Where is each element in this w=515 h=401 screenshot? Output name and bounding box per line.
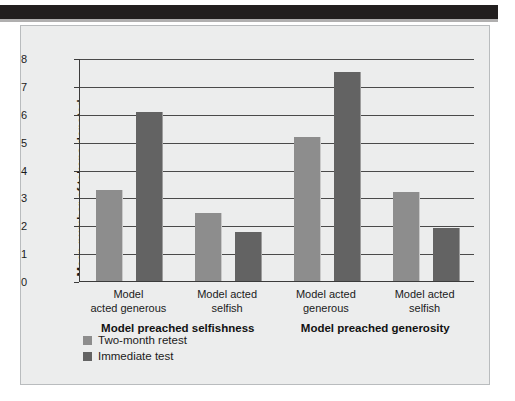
bar-immediate-test	[136, 112, 163, 281]
y-tick-label: 4	[5, 166, 27, 176]
x-category-label: Model actedselfish	[365, 288, 485, 315]
top-black-band	[0, 5, 498, 19]
y-tick-label: 1	[5, 249, 27, 259]
y-tick-label: 6	[5, 110, 27, 120]
legend-label: Immediate test	[98, 350, 173, 362]
y-axis-label-holder: Mean number of tokens donated	[43, 86, 63, 266]
bar-two-month-retest	[294, 137, 321, 281]
bar-two-month-retest	[195, 213, 222, 281]
x-category-label-line: selfish	[365, 302, 485, 316]
chart-figure: Mean number of tokens donated 012345678 …	[20, 25, 490, 385]
x-group-label: Model preached generosity	[265, 322, 485, 334]
y-tick-mark	[74, 143, 79, 144]
y-tick-label: 7	[5, 82, 27, 92]
legend-swatch-icon	[83, 352, 92, 361]
bar-immediate-test	[334, 72, 361, 281]
y-tick-mark	[74, 87, 79, 88]
x-category-label-line: Model acted	[365, 288, 485, 302]
y-tick-label: 0	[5, 277, 27, 287]
legend-item: Two-month retest	[83, 332, 187, 348]
y-tick-mark	[74, 226, 79, 227]
y-tick-label: 3	[5, 193, 27, 203]
bar-immediate-test	[235, 232, 262, 281]
bar-two-month-retest	[96, 190, 123, 281]
legend-swatch-icon	[83, 336, 92, 345]
y-tick-mark	[74, 59, 79, 60]
y-tick-label: 2	[5, 221, 27, 231]
gridline	[80, 59, 474, 60]
y-tick-mark	[74, 171, 79, 172]
legend-item: Immediate test	[83, 348, 187, 364]
y-tick-mark	[74, 115, 79, 116]
bar-immediate-test	[433, 228, 460, 281]
y-tick-mark	[74, 254, 79, 255]
y-tick-label: 8	[5, 54, 27, 64]
legend-label: Two-month retest	[98, 334, 187, 346]
bar-two-month-retest	[393, 192, 420, 281]
plot-area	[79, 59, 474, 282]
chart-legend: Two-month retestImmediate test	[83, 332, 187, 364]
y-tick-label: 5	[5, 138, 27, 148]
y-tick-mark	[74, 198, 79, 199]
gridline	[80, 87, 474, 88]
y-tick-mark	[74, 282, 79, 283]
top-band-shadow	[0, 19, 498, 22]
